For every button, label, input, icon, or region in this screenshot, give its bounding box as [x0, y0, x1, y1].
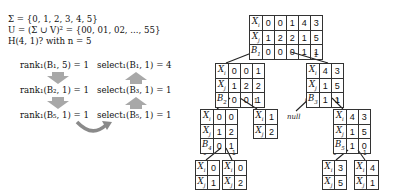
tree-leaf-4: Xi4 Xj1	[354, 160, 379, 190]
tree-node-level2-left: Xi001 Xj122 B2001	[215, 63, 265, 108]
tree-node-level2-right: Xi43 Xj15 B311	[306, 63, 344, 108]
tree-leaf-1: Xi0 Xj1	[195, 160, 220, 190]
tree-node-level3-rr: Xi43 Xj15 B510	[333, 109, 371, 154]
tree-node-level3-lr-leaf: Xi1 Xj2	[253, 109, 278, 139]
null-node: null	[287, 113, 301, 121]
tree-leaf-3: Xi3 Xj5	[322, 160, 347, 190]
tree-node-root: Xi00143 Xj12215 B100011	[249, 15, 323, 60]
tree-leaf-2: Xi0 Xj2	[222, 160, 247, 190]
tree-node-level3-ll: Xi00 Xj12 B401	[200, 109, 238, 154]
